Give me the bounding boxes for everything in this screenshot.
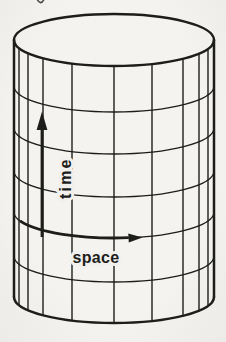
cylinder-grid-lines [14,48,214,323]
spacetime-cylinder-diagram: time space [0,0,226,342]
time-arrowhead-icon [37,112,48,131]
space-axis-label: space [73,249,120,266]
cropped-text-artifact [37,0,44,3]
space-arrowhead-icon [128,233,142,242]
time-axis-label: time [57,157,74,199]
space-axis-arrow [20,221,143,243]
time-axis-arrow [37,112,48,238]
space-arrow-shaft [20,221,129,238]
book-figure-page: time space [0,0,226,342]
